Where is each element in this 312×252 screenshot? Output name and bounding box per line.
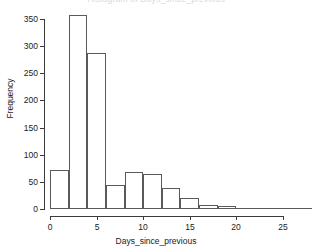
- histogram-bar: [162, 188, 181, 209]
- histogram-bar: [87, 53, 106, 209]
- x-axis-tick-label: 0: [35, 223, 65, 232]
- x-axis-tick: [283, 216, 284, 220]
- x-axis-tick-label: 25: [268, 223, 298, 232]
- x-axis-tick: [190, 216, 191, 220]
- y-axis-tick: [40, 209, 44, 210]
- y-axis-tick: [40, 128, 44, 129]
- y-axis-tick: [40, 100, 44, 101]
- x-axis-tick-label: 15: [175, 223, 205, 232]
- x-axis-tick: [143, 216, 144, 220]
- plot-area: [50, 14, 312, 209]
- y-axis-tick-label: 0: [0, 205, 38, 214]
- y-axis-tick: [40, 46, 44, 47]
- y-axis-tick: [40, 19, 44, 20]
- y-axis-tick: [40, 182, 44, 183]
- histogram-bar: [69, 15, 88, 209]
- histogram-bar: [106, 185, 125, 209]
- y-axis-tick-label-text: 100: [4, 151, 38, 160]
- x-axis-tick: [50, 216, 51, 220]
- x-axis-tick-label: 5: [82, 223, 112, 232]
- y-axis-tick-label-text: 0: [4, 205, 38, 214]
- y-axis-tick-label-text: 50: [4, 178, 38, 187]
- x-axis-tick: [236, 216, 237, 220]
- chart-title: Histogram of Days_since_previous: [0, 0, 312, 5]
- y-axis-tick-label: 100: [0, 151, 38, 160]
- y-axis-tick-label: 50: [0, 178, 38, 187]
- bar-baseline: [50, 208, 312, 209]
- histogram-chart: Histogram of Days_since_previous 0501001…: [0, 0, 312, 252]
- histogram-bar: [125, 172, 144, 209]
- y-axis-tick: [40, 155, 44, 156]
- y-axis-tick: [40, 73, 44, 74]
- y-axis-title: Frequency: [6, 59, 15, 139]
- y-axis-tick-label: 300: [0, 42, 38, 51]
- y-axis-tick-label-text: 350: [4, 15, 38, 24]
- histogram-bar: [50, 170, 69, 209]
- y-axis-line: [44, 19, 45, 210]
- x-axis-tick: [97, 216, 98, 220]
- x-axis-title: Days_since_previous: [0, 237, 312, 246]
- y-axis-tick-label: 350: [0, 15, 38, 24]
- x-axis-tick-label: 20: [221, 223, 251, 232]
- x-axis-line: [50, 216, 284, 217]
- x-axis-tick-label: 10: [128, 223, 158, 232]
- y-axis-tick-label-text: 300: [4, 42, 38, 51]
- histogram-bar: [143, 174, 162, 209]
